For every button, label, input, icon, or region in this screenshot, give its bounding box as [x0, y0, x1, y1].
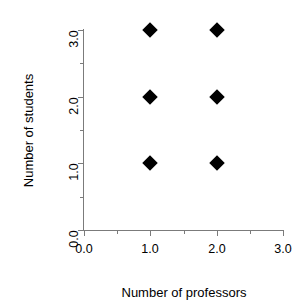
y-tick-label: 2.0 [68, 97, 81, 137]
y-tick-label: 1.0 [68, 163, 81, 203]
data-point-marker [209, 89, 225, 105]
data-point-marker [143, 22, 159, 38]
x-tick-major [283, 231, 284, 236]
x-tick-major [150, 231, 151, 236]
x-tick-minor [117, 231, 118, 234]
data-point-marker [143, 156, 159, 172]
scatter-chart: Number of students Number of professors … [0, 0, 307, 306]
x-axis-title: Number of professors [74, 286, 294, 299]
data-point-marker [209, 22, 225, 38]
x-tick-major [217, 231, 218, 236]
data-point-marker [143, 89, 159, 105]
x-tick-label: 3.0 [263, 243, 303, 256]
plot-area [84, 30, 283, 230]
x-tick-label: 1.0 [130, 243, 170, 256]
y-axis-title: Number of students [22, 51, 35, 211]
y-tick-minor [80, 63, 83, 64]
y-tick-label: 0.0 [68, 230, 81, 270]
x-tick-minor [184, 231, 185, 234]
data-point-marker [209, 156, 225, 172]
y-tick-label: 3.0 [68, 30, 81, 70]
y-tick-minor [80, 130, 83, 131]
x-tick-label: 2.0 [197, 243, 237, 256]
x-tick-major [84, 231, 85, 236]
x-tick-minor [250, 231, 251, 234]
y-tick-minor [80, 197, 83, 198]
